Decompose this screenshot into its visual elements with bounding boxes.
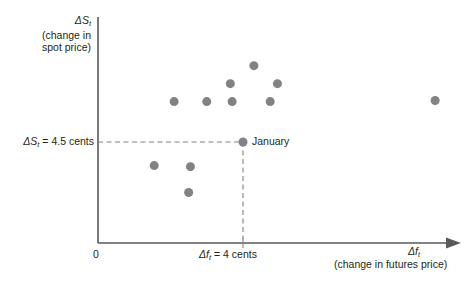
data-point: [249, 61, 258, 70]
scatter-chart-figure: ΔSt (change in spot price) ΔSt = 4.5 cen…: [0, 0, 474, 295]
data-point: [226, 79, 235, 88]
data-point: [266, 97, 275, 106]
x-axis-reference-value: = 4 cents: [214, 248, 257, 260]
data-point: [184, 188, 193, 197]
y-axis-title-symbol: ΔS: [75, 14, 89, 26]
data-point-group: [150, 61, 440, 197]
data-point: [186, 162, 195, 171]
x-axis-reference-subscript: t: [209, 253, 211, 262]
data-point: [431, 96, 440, 105]
data-point: [228, 97, 237, 106]
y-axis-title-subscript: t: [89, 19, 91, 28]
x-axis-title-symbol: Δf: [408, 245, 418, 257]
data-point: [273, 79, 282, 88]
y-axis-title-caption-line2: spot price): [42, 41, 91, 53]
data-point-january: [239, 138, 248, 147]
y-axis-title-caption-line1: (change in: [42, 29, 91, 41]
data-point: [150, 161, 159, 170]
y-axis-reference-subscript: t: [37, 140, 39, 149]
x-axis-subtitle: (change in futures price): [334, 258, 447, 271]
y-axis-reference-symbol: ΔS: [23, 135, 37, 147]
y-axis-reference-label: ΔSt = 4.5 cents: [23, 135, 94, 150]
data-point: [170, 97, 179, 106]
january-annotation-label: January: [252, 135, 289, 148]
x-axis-reference-label: Δft = 4 cents: [199, 248, 257, 263]
x-axis-reference-symbol: Δf: [199, 248, 209, 260]
y-axis-title: ΔSt (change in spot price): [1, 14, 91, 54]
origin-label: 0: [93, 248, 99, 261]
data-point: [202, 97, 211, 106]
y-axis-reference-value: = 4.5 cents: [42, 135, 94, 147]
x-axis-arrow-icon: [446, 238, 461, 249]
